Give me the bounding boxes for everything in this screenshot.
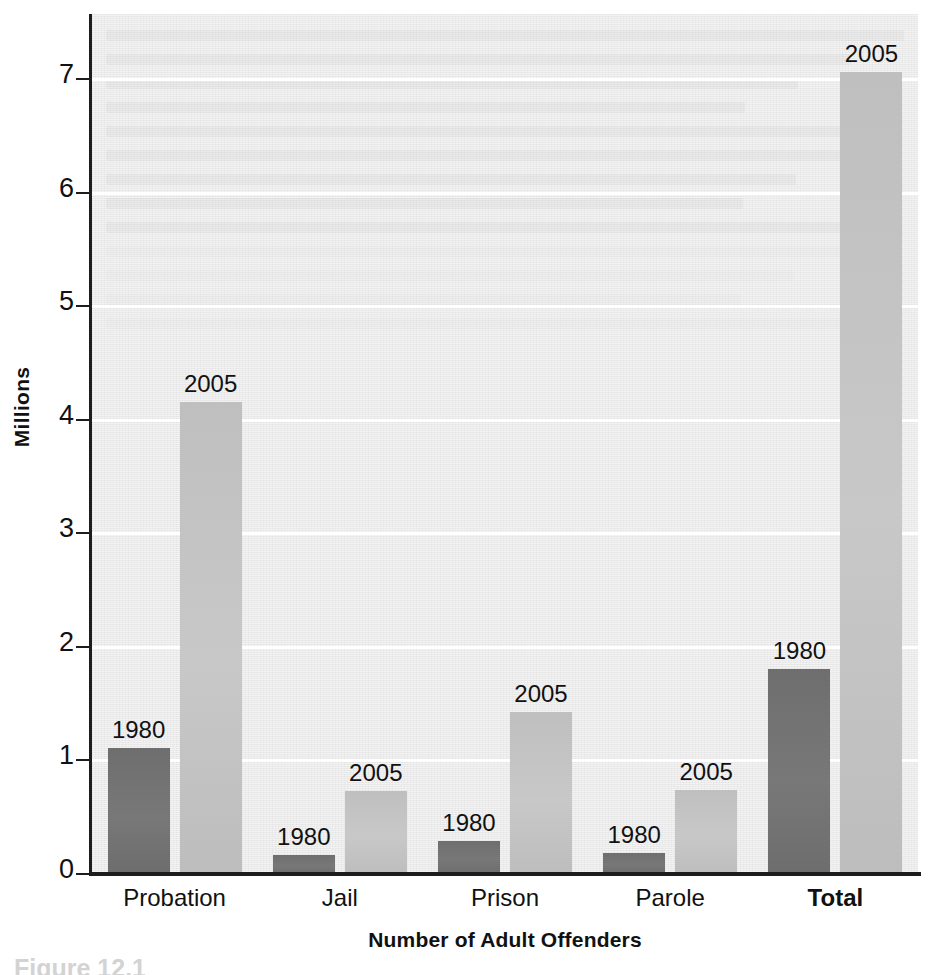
bar-label-jail-2005: 2005 xyxy=(327,759,425,787)
category-label-parole: Parole xyxy=(580,884,760,912)
y-tick-6 xyxy=(76,192,90,194)
bar-label-parole-2005: 2005 xyxy=(657,758,755,786)
bleedthrough-line xyxy=(106,54,851,65)
bar-label-prison-1980: 1980 xyxy=(420,809,518,837)
bar-probation-2005 xyxy=(180,402,242,874)
bar-parole-2005 xyxy=(675,790,737,874)
bleedthrough-line xyxy=(106,198,743,209)
bleedthrough-line xyxy=(106,30,904,41)
y-axis-title: Millions xyxy=(10,347,34,467)
bleedthrough-line xyxy=(106,246,847,257)
gridline-7 xyxy=(92,78,918,81)
y-tick-0 xyxy=(76,873,90,875)
bar-label-prison-2005: 2005 xyxy=(492,680,590,708)
y-tick-2 xyxy=(76,646,90,648)
bar-label-probation-1980: 1980 xyxy=(90,716,188,744)
bleedthrough-line xyxy=(106,270,794,281)
bleedthrough-line xyxy=(106,150,849,161)
y-tick-label-0: 0 xyxy=(6,854,74,885)
x-axis-title: Number of Adult Offenders xyxy=(92,928,918,952)
bar-parole-1980 xyxy=(603,853,665,874)
gridline-5 xyxy=(92,305,918,308)
plot-area xyxy=(92,14,918,874)
y-tick-1 xyxy=(76,759,90,761)
y-tick-4 xyxy=(76,419,90,421)
bleedthrough-line xyxy=(106,174,796,185)
bar-label-probation-2005: 2005 xyxy=(162,370,260,398)
y-tick-label-7: 7 xyxy=(6,59,74,90)
y-axis-tick-labels: 01234567 xyxy=(0,0,74,975)
y-tick-label-2: 2 xyxy=(6,627,74,658)
y-tick-label-5: 5 xyxy=(6,286,74,317)
y-tick-3 xyxy=(76,532,90,534)
y-tick-label-1: 1 xyxy=(6,740,74,771)
bar-total-1980 xyxy=(768,669,830,874)
figure-page: 01234567 Millions 1980200519802005198020… xyxy=(0,0,929,975)
bar-label-total-2005: 2005 xyxy=(822,40,920,68)
bleedthrough-line xyxy=(106,102,745,113)
category-label-total: Total xyxy=(745,884,925,912)
category-label-prison: Prison xyxy=(415,884,595,912)
bar-label-parole-1980: 1980 xyxy=(585,821,683,849)
bar-label-total-1980: 1980 xyxy=(750,637,848,665)
bleedthrough-line xyxy=(106,294,741,305)
bar-prison-1980 xyxy=(438,841,500,874)
gridline-6 xyxy=(92,192,918,195)
bar-prison-2005 xyxy=(510,712,572,874)
bar-total-2005 xyxy=(840,72,902,874)
bar-label-jail-1980: 1980 xyxy=(255,823,353,851)
y-tick-label-6: 6 xyxy=(6,173,74,204)
bar-probation-1980 xyxy=(108,748,170,874)
figure-caption: Figure 12.1 xyxy=(14,954,146,975)
bleedthrough-line xyxy=(106,126,902,137)
y-axis-line xyxy=(89,14,92,875)
bar-jail-2005 xyxy=(345,791,407,874)
y-tick-label-3: 3 xyxy=(6,513,74,544)
bleedthrough-line xyxy=(106,318,898,329)
y-tick-5 xyxy=(76,305,90,307)
category-label-jail: Jail xyxy=(250,884,430,912)
category-label-probation: Probation xyxy=(85,884,265,912)
y-tick-7 xyxy=(76,78,90,80)
x-axis-line xyxy=(89,872,921,876)
bleedthrough-line xyxy=(106,222,900,233)
